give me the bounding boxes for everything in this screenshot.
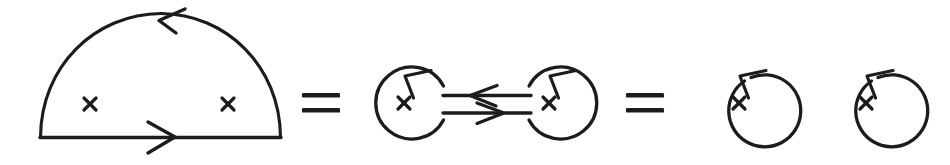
- equals-bar-top-2: [626, 93, 664, 98]
- joined-right-circle-arrow-icon: [550, 71, 576, 99]
- joined-right-circle-cross: [543, 97, 555, 109]
- diagram-figure: [0, 0, 950, 165]
- cross-vertex-right: [222, 98, 234, 110]
- equals-sign-2: [626, 93, 664, 113]
- separate-left-circle-cross: [733, 97, 745, 109]
- joined-left-circle: [376, 67, 444, 139]
- equals-bar-top: [302, 93, 340, 98]
- separate-right-circle-cross: [860, 97, 872, 109]
- term-two-joined-circles: [376, 67, 597, 139]
- cross-vertex-left: [84, 98, 96, 110]
- joined-right-circle: [529, 67, 597, 139]
- joined-left-circle-arrow-icon: [405, 71, 431, 99]
- joined-left-circle-cross: [398, 97, 410, 109]
- term-two-separate-circles: [729, 71, 928, 147]
- diagram-canvas: [0, 0, 950, 165]
- equals-sign-1: [302, 93, 340, 113]
- separate-left-circle: [729, 75, 801, 147]
- equals-bar-bottom-2: [626, 108, 664, 113]
- term-semicircle-loop: [40, 9, 281, 153]
- equals-bar-bottom: [302, 108, 340, 113]
- separate-right-circle: [856, 75, 928, 147]
- semicircle-arc: [41, 14, 281, 138]
